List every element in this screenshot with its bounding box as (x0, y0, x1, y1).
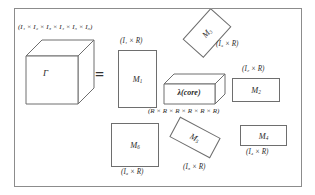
m4-matrix: M4 (240, 125, 287, 146)
m4-label: M4 (241, 131, 286, 140)
m3-dims-label: (I₃ × R) (216, 41, 239, 48)
m5-dims-label: (I₅ × R) (183, 164, 206, 171)
m2-dims-label: (I₂ × R) (242, 66, 265, 73)
m1-dims-label: (I₁ × R) (120, 38, 143, 45)
m6-matrix: M6 (111, 123, 159, 167)
equals-sign: = (95, 66, 104, 84)
core-dims-label: (R × R × R × R × R × R) (148, 108, 219, 115)
m6-label: M6 (112, 141, 158, 150)
m2-matrix: M2 (232, 78, 280, 102)
tensor-decomposition-figure: (I₁ × I₂ × I₃ × I₄ × I₅ × I₆) Γ = (I₁ × … (0, 0, 315, 195)
core-symbol: λ(core) (163, 88, 215, 97)
tensor-dims-label: (I₁ × I₂ × I₃ × I₄ × I₅ × I₆) (18, 24, 92, 31)
tensor-cube-shape (24, 36, 96, 108)
cube-front-face (26, 56, 78, 104)
m1-label: M1 (119, 75, 156, 84)
m6-dims-label: (I₆ × R) (121, 169, 144, 176)
m1-matrix: M1 (118, 50, 157, 108)
m2-label: M2 (233, 86, 279, 95)
tensor-symbol: Γ (43, 68, 48, 78)
m4-dims-label: (I₄ × R) (246, 149, 269, 156)
